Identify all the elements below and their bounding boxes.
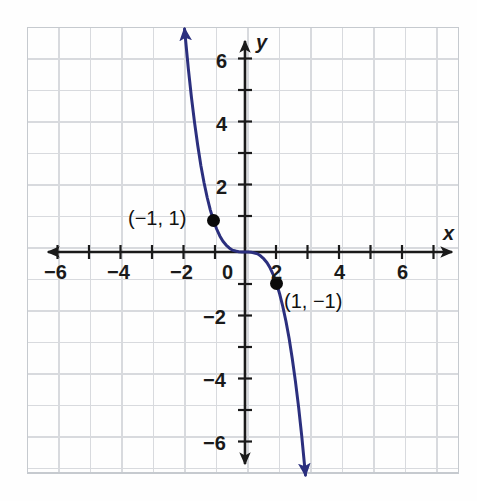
coordinate-plane-svg — [0, 0, 477, 501]
y-tick-label-neg4: −4 — [203, 370, 226, 390]
graph-figure: −6 −4 −2 2 4 6 6 4 2 −2 −4 −6 0 x y (−1,… — [0, 0, 477, 501]
grid-lines — [27, 27, 459, 473]
x-tick-label-4: 4 — [334, 262, 345, 282]
grid-border — [28, 28, 459, 474]
x-tick-label-neg2: −2 — [170, 262, 193, 282]
point-label-1-neg1: (1, −1) — [284, 291, 342, 311]
x-tick-label-neg4: −4 — [107, 262, 130, 282]
y-tick-label-neg6: −6 — [203, 433, 226, 453]
point-label-neg1-1: (−1, 1) — [128, 208, 186, 228]
origin-label: 0 — [222, 262, 233, 282]
x-tick-label-6: 6 — [397, 262, 408, 282]
x-tick-label-2: 2 — [271, 262, 282, 282]
y-tick-label-neg2: −2 — [203, 307, 226, 327]
y-axis-label: y — [256, 32, 267, 52]
y-tick-label-4: 4 — [216, 114, 227, 134]
y-tick-label-6: 6 — [216, 51, 227, 71]
x-tick-label-neg6: −6 — [44, 262, 67, 282]
y-tick-label-2: 2 — [216, 177, 227, 197]
x-axis-label: x — [443, 223, 454, 243]
plot-point — [207, 214, 220, 227]
